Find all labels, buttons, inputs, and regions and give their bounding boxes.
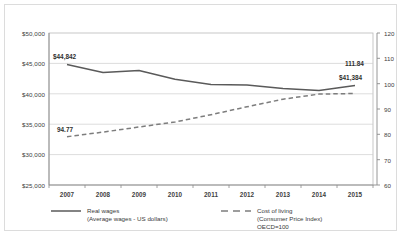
x-tick-2015: 2015 bbox=[337, 191, 373, 198]
legend-sublabel-real-wages: (Average wages - US dollars) bbox=[87, 215, 168, 223]
legend-item-cost-of-living[interactable]: Cost of living (Consumer Price Index) OE… bbox=[257, 207, 322, 232]
y-left-tick-30000: $30,000 bbox=[5, 151, 45, 158]
x-tick-2012: 2012 bbox=[229, 191, 265, 198]
x-tick-2008: 2008 bbox=[85, 191, 121, 198]
x-tick-2011: 2011 bbox=[193, 191, 229, 198]
y-left-tick-45000: $45,000 bbox=[5, 60, 45, 67]
right-axis-ticks bbox=[377, 33, 380, 185]
plot-border bbox=[49, 33, 373, 185]
y-left-tick-40000: $40,000 bbox=[5, 91, 45, 98]
gridlines-horizontal bbox=[49, 63, 373, 154]
x-tick-2013: 2013 bbox=[265, 191, 301, 198]
y-left-tick-50000: $50,000 bbox=[5, 30, 45, 37]
legend-sublabel-cost-of-living: (Consumer Price Index) bbox=[257, 215, 322, 223]
y-right-tick-120: 120 bbox=[384, 30, 403, 37]
plot-area: $50,000 $45,000 $40,000 $35,000 $30,000 … bbox=[5, 5, 398, 232]
x-tick-2014: 2014 bbox=[301, 191, 337, 198]
legend-item-real-wages[interactable]: Real wages (Average wages - US dollars) bbox=[87, 207, 168, 223]
y-right-tick-80: 80 bbox=[384, 131, 403, 138]
y-right-tick-110: 110 bbox=[384, 55, 403, 62]
chart-container: $50,000 $45,000 $40,000 $35,000 $30,000 … bbox=[4, 4, 397, 231]
annotation-real-wages-2015: $41,384 bbox=[339, 74, 362, 81]
x-tick-2010: 2010 bbox=[157, 191, 193, 198]
series-line-cost-of-living bbox=[67, 94, 355, 137]
y-left-tick-35000: $35,000 bbox=[5, 121, 45, 128]
y-right-tick-60: 60 bbox=[384, 182, 403, 189]
annotation-cost-of-living-2015: 111.84 bbox=[345, 60, 364, 67]
x-tick-2007: 2007 bbox=[49, 191, 85, 198]
y-right-tick-100: 100 bbox=[384, 81, 403, 88]
legend-sublabel2-cost-of-living: OECD=100 bbox=[257, 223, 322, 231]
annotation-real-wages-2007: $44,842 bbox=[53, 53, 76, 60]
legend-label-cost-of-living: Cost of living bbox=[257, 207, 322, 215]
x-tick-2009: 2009 bbox=[121, 191, 157, 198]
annotation-cost-of-living-2007: 94.77 bbox=[57, 126, 73, 133]
legend-label-real-wages: Real wages bbox=[87, 207, 168, 215]
y-left-tick-25000: $25,000 bbox=[5, 182, 45, 189]
y-right-tick-70: 70 bbox=[384, 157, 403, 164]
series-line-real-wages bbox=[67, 64, 355, 90]
y-right-tick-90: 90 bbox=[384, 106, 403, 113]
